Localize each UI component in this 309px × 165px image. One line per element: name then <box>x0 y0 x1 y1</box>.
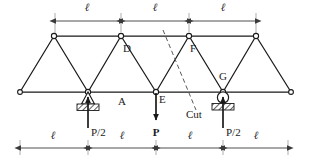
reaction-right-label: P/2 <box>226 126 241 138</box>
joint-top-f <box>186 33 191 38</box>
bottom-dim-label-1: ℓ <box>51 129 56 141</box>
label-node-f: F <box>190 42 196 54</box>
bottom-dim-label-2: ℓ <box>120 129 125 141</box>
reaction-left-label: P/2 <box>91 126 106 138</box>
label-panel-a: A <box>118 95 126 107</box>
figure-background <box>0 0 309 165</box>
joint-top-d <box>118 33 123 38</box>
label-node-e: E <box>159 93 166 105</box>
truss-diagram-figure: ℓ ℓ ℓ <box>0 0 309 165</box>
bottom-dim-label-4: ℓ <box>254 129 259 141</box>
joint-top-4 <box>253 33 258 38</box>
joint-bottom-right-end <box>289 90 294 95</box>
label-cut: Cut <box>186 108 202 120</box>
label-node-g: G <box>219 70 227 82</box>
top-dim-label-2: ℓ <box>153 1 158 13</box>
label-node-d: D <box>123 42 131 54</box>
bottom-dim-label-3: ℓ <box>188 129 193 141</box>
joint-bottom-left-end <box>18 90 23 95</box>
truss-diagram-canvas: ℓ ℓ ℓ <box>0 0 309 165</box>
top-dim-label-1: ℓ <box>85 1 90 13</box>
top-dim-label-3: ℓ <box>221 1 226 13</box>
load-p-label: P <box>153 126 160 138</box>
joint-top-1 <box>51 33 56 38</box>
